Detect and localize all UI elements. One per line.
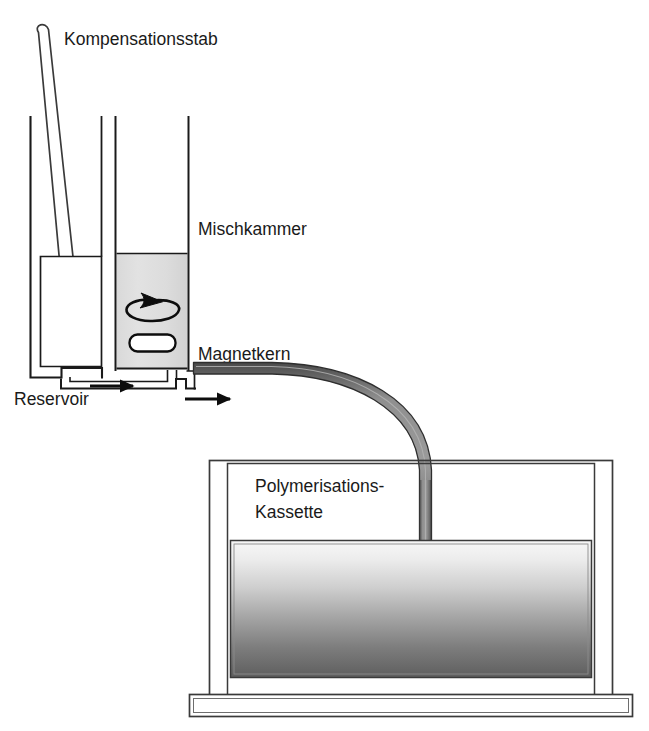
cassette-contents [231, 541, 592, 678]
apparatus-diagram: Kompensationsstab Reservoir [0, 0, 649, 731]
label-mischkammer: Mischkammer [198, 219, 307, 239]
base-plate-inner [194, 699, 629, 713]
label-kassette-line1: Polymerisations- [255, 476, 385, 496]
reservoir-cup [41, 257, 102, 367]
feed-channel-inner-edge [70, 370, 168, 382]
diagram-canvas: Kompensationsstab Reservoir [0, 0, 649, 731]
magnet-core-bar [130, 335, 176, 352]
label-kompensationsstab: Kompensationsstab [64, 29, 218, 49]
base-plate [190, 695, 633, 717]
polymerisation-cassette [210, 461, 613, 699]
label-magnetkern: Magnetkern [198, 344, 290, 364]
mixing-chamber [116, 116, 189, 371]
label-reservoir: Reservoir [14, 389, 89, 409]
label-kassette-line2: Kassette [255, 502, 323, 522]
